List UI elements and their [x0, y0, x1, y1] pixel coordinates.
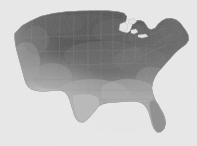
- scan-grain-overlay: [0, 0, 197, 146]
- us-map: Darker tones concentrate across the nort…: [0, 0, 197, 146]
- us-map-svg: Darker tones concentrate across the nort…: [0, 0, 197, 146]
- figure-container: Darker tones concentrate across the nort…: [0, 0, 197, 146]
